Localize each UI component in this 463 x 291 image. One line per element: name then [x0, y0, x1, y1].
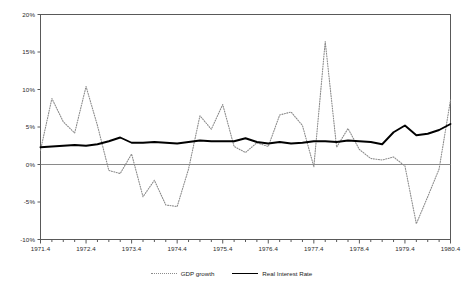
series-line-gdp-growth — [41, 42, 451, 224]
y-tick-label: 0% — [2, 161, 35, 168]
y-tick-label: -5% — [2, 198, 35, 205]
chart-container: -10%-5%0%5%10%15%20% 1971.41972.41973.41… — [0, 0, 463, 291]
x-tick-label: 1972.4 — [64, 245, 108, 252]
y-tick-label: 20% — [2, 11, 35, 18]
x-tick-label: 1971.4 — [19, 245, 63, 252]
x-tick-label: 1974.4 — [155, 245, 199, 252]
x-tick-label: 1979.4 — [383, 245, 427, 252]
series-line-real-interest-rate — [41, 124, 451, 147]
chart-legend: GDP growth Real Interest Rate — [0, 270, 463, 277]
x-tick-label: 1973.4 — [110, 245, 154, 252]
x-tick-label: 1976.4 — [246, 245, 290, 252]
legend-swatch-dotted-icon — [151, 273, 177, 274]
y-tick-label: 10% — [2, 86, 35, 93]
legend-item-gdp-growth: GDP growth — [151, 270, 215, 277]
legend-item-real-interest-rate: Real Interest Rate — [232, 270, 312, 277]
legend-label-real-interest-rate: Real Interest Rate — [262, 270, 312, 277]
x-tick-label: 1980.4 — [429, 245, 463, 252]
x-tick-label: 1977.4 — [292, 245, 336, 252]
legend-label-gdp-growth: GDP growth — [181, 270, 215, 277]
y-tick-label: -10% — [2, 236, 35, 243]
y-tick-label: 5% — [2, 123, 35, 130]
y-tick-label: 15% — [2, 48, 35, 55]
legend-swatch-solid-icon — [232, 273, 258, 274]
x-tick-label: 1978.4 — [337, 245, 381, 252]
x-tick-label: 1975.4 — [201, 245, 245, 252]
